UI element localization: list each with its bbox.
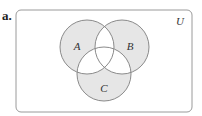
set-c-label: C: [100, 82, 108, 94]
venn-diagram: A B C U: [0, 0, 202, 116]
set-b-label: B: [127, 40, 134, 52]
universe-label: U: [176, 15, 185, 27]
set-a-label: A: [73, 40, 81, 52]
